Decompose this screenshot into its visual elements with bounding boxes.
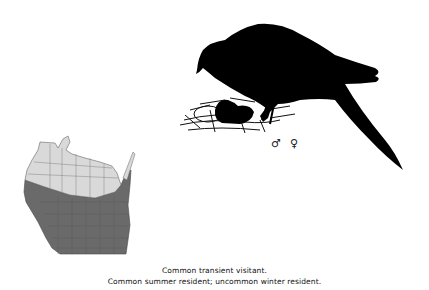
caption-line-2: Common summer resident; uncommon winter … (0, 277, 429, 286)
male-symbol: ♂ (271, 137, 281, 150)
chick (215, 100, 254, 124)
bird-silhouette-illustration (170, 0, 429, 180)
caption-line-1: Common transient visitant. (0, 266, 429, 275)
adult-bird (196, 24, 403, 170)
female-symbol: ♀ (290, 137, 298, 150)
wisconsin-range-map (0, 130, 140, 260)
